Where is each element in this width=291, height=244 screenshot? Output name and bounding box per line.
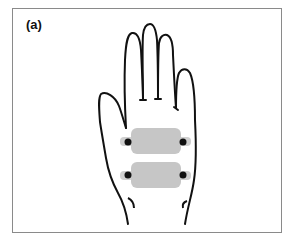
- upper-right-contact-icon: [180, 139, 187, 146]
- upper-electrode: [120, 128, 191, 154]
- lower-right-contact-icon: [180, 172, 187, 179]
- lower-electrode-pad: [131, 162, 181, 188]
- upper-left-contact-icon: [125, 139, 132, 146]
- lower-left-contact-icon: [125, 172, 132, 179]
- hand-diagram: [0, 0, 291, 244]
- upper-electrode-pad: [131, 128, 181, 154]
- wrist-lines: [128, 198, 187, 208]
- lower-electrode: [120, 162, 191, 188]
- hand-outline: [99, 24, 196, 224]
